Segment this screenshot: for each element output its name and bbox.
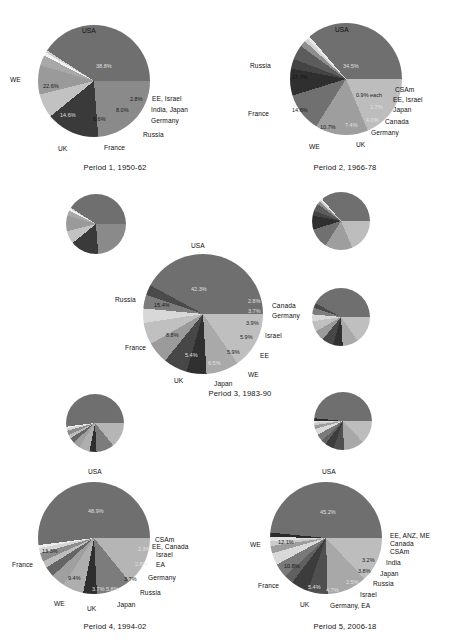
slice-label-france: France xyxy=(248,110,269,118)
slice-value-usa: 42.3% xyxy=(191,286,207,292)
slice-value-uk: 14.6% xyxy=(60,112,76,118)
slice-value-israel: 2.5% xyxy=(346,579,359,585)
slice-value-we: 12.1% xyxy=(278,539,294,545)
slice-value-france: 6.6% xyxy=(93,116,106,122)
slice-label-canada: Canada xyxy=(272,302,296,310)
slice-label-germany: Germany xyxy=(371,129,399,137)
slice-label-ee-israel: EE, Israel xyxy=(393,96,423,104)
slice-value-each: 0.9% each xyxy=(356,92,382,98)
slice-label-usa: USA xyxy=(88,468,102,476)
slice-value-canada: 4.0% xyxy=(366,117,379,123)
slice-value-usa: 34.5% xyxy=(343,63,359,69)
slice-label-israel: Israel xyxy=(265,332,282,340)
slice-label-germany: Germany xyxy=(272,312,300,320)
slice-label-india-japan: India, Japan xyxy=(151,106,188,114)
pie-thumbnail xyxy=(66,394,124,452)
slice-label-we: WE xyxy=(10,76,21,84)
slice-value-israel: 2.3% xyxy=(138,546,151,552)
slice-label-germany-ea: Germany, EA xyxy=(330,602,370,610)
slice-label-france: France xyxy=(104,144,125,152)
slice-label-israel: Israel xyxy=(156,551,173,559)
slice-value-uk: 3.7% xyxy=(92,586,105,592)
slice-label-ea: EA xyxy=(156,561,165,569)
pie-thumbnail xyxy=(312,288,370,346)
slice-value-france: 8.8% xyxy=(166,332,179,338)
slice-label-france: France xyxy=(258,582,279,590)
slice-label-uk: UK xyxy=(87,605,96,613)
slice-label-germany: Germany xyxy=(151,117,179,125)
slice-value-russia: 17.7% xyxy=(292,74,308,80)
slice-label-ee-anz-me: EE, ANZ, ME xyxy=(390,532,430,540)
slice-value-israel: 3.9% xyxy=(246,320,259,326)
slice-value-japan: 5.8% xyxy=(106,586,119,592)
slice-value-japan: 1.7% xyxy=(370,104,383,110)
slice-value-france: 10.8% xyxy=(284,563,300,569)
slice-label-usa: USA xyxy=(82,27,96,35)
slice-label-csam: CSAm xyxy=(155,536,174,544)
slice-value-japan: 6.5% xyxy=(208,360,221,366)
pie-chart-period-1[interactable]: USA WE UK France Russia Germany India, J… xyxy=(0,0,230,185)
slice-value-we: 9.4% xyxy=(68,575,81,581)
slice-label-russia: Russia xyxy=(373,580,394,588)
pie-chart-period-4[interactable]: USA France WE UK Japan Russia Germany EA… xyxy=(0,458,230,643)
slice-label-russia: Russia xyxy=(143,131,164,139)
slice-label-usa: USA xyxy=(191,242,205,250)
slice-label-russia: Russia xyxy=(250,62,271,70)
chart-caption-period-2: Period 2, 1966-78 xyxy=(230,163,460,172)
slice-label-canada: Canada xyxy=(385,118,409,126)
slice-value-ee: 5.9% xyxy=(240,334,253,340)
slice-value-germany: 2.8% xyxy=(135,561,148,567)
slice-value-uk: 5.4% xyxy=(308,584,321,590)
pie-graphic-period-3 xyxy=(143,254,263,374)
slice-label-csam: CSAm xyxy=(390,548,409,556)
pie-thumbnail xyxy=(314,392,372,450)
chart-caption-period-4: Period 4, 1994-02 xyxy=(0,622,230,631)
slice-value-usa: 38.8% xyxy=(96,63,112,69)
slice-value-uk: 5.4% xyxy=(185,352,198,358)
slice-label-uk: UK xyxy=(356,141,365,149)
slice-value-russia: 15.4% xyxy=(154,302,170,308)
slice-value-russia: 3.7% xyxy=(124,576,137,582)
pie-chart-period-2[interactable]: USA Russia France WE UK Germany Canada J… xyxy=(230,0,460,185)
slice-label-ee-canada: EE, Canada xyxy=(152,543,189,551)
slice-value-canada: 2.8% xyxy=(248,298,261,304)
slice-value-usa: 45.2% xyxy=(320,509,336,515)
slice-value-russia: 8.0% xyxy=(116,107,129,113)
chart-caption-period-5: Period 5, 2006-18 xyxy=(230,622,460,631)
slice-value-germany: 2.8% xyxy=(130,96,143,102)
slice-label-we: WE xyxy=(248,371,259,379)
slice-label-japan: Japan xyxy=(117,601,135,609)
slice-label-india: India xyxy=(386,559,401,567)
slice-value-usa: 48.9% xyxy=(88,508,104,514)
slice-label-we: WE xyxy=(309,143,320,151)
slice-label-israel: Israel xyxy=(360,591,377,599)
slice-label-usa: USA xyxy=(335,26,349,34)
slice-label-ee-israel: EE, Israel xyxy=(152,95,182,103)
slice-value-we: 22.6% xyxy=(43,83,59,89)
slice-label-russia: Russia xyxy=(115,296,136,304)
slice-label-japan: Japan xyxy=(214,380,232,388)
slice-label-uk: UK xyxy=(174,377,183,385)
slice-label-ee: EE xyxy=(260,352,269,360)
figure-sheet: USA WE UK France Russia Germany India, J… xyxy=(0,0,460,643)
slice-label-csam: CSAm xyxy=(395,86,414,94)
slice-label-we: WE xyxy=(54,600,65,608)
slice-label-japan: Japan xyxy=(393,106,411,114)
chart-caption-period-1: Period 1, 1950-62 xyxy=(0,163,230,172)
slice-label-france: France xyxy=(12,561,33,569)
slice-label-uk: UK xyxy=(300,601,309,609)
slice-label-japan: Japan xyxy=(380,570,398,578)
pie-chart-period-5[interactable]: USA WE France UK Germany, EA Israel Russ… xyxy=(230,458,460,643)
slice-value-france: 13.3% xyxy=(42,548,58,554)
pie-graphic-period-5 xyxy=(270,482,382,594)
slice-value-we: 5.9% xyxy=(227,349,240,355)
slice-label-canada: Canada xyxy=(390,540,414,548)
slice-value-germany-ea: 4.7% xyxy=(326,587,339,593)
slice-label-we: WE xyxy=(250,541,261,549)
slice-label-russia: Russia xyxy=(140,589,161,597)
slice-label-uk: UK xyxy=(58,145,67,153)
slice-value-we: 10.7% xyxy=(320,124,336,130)
slice-value-germany: 3.7% xyxy=(248,308,261,314)
slice-label-germany: Germany xyxy=(148,574,176,582)
slice-value-russia: 3.8% xyxy=(358,568,371,574)
